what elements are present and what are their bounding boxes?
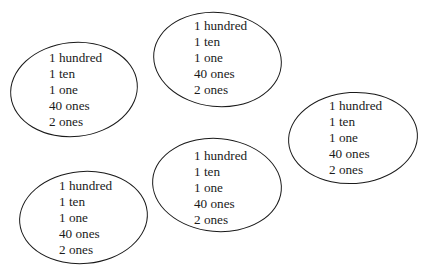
line-one: 1 one — [194, 50, 247, 66]
line-40-ones: 40 ones — [194, 196, 247, 212]
line-hundred: 1 hundred — [59, 178, 112, 194]
line-hundred: 1 hundred — [329, 98, 382, 114]
line-one: 1 one — [59, 210, 112, 226]
line-40-ones: 40 ones — [59, 226, 112, 242]
line-hundred: 1 hundred — [194, 18, 247, 34]
line-2-ones: 2 ones — [49, 114, 102, 130]
line-hundred: 1 hundred — [49, 50, 102, 66]
line-ten: 1 ten — [194, 164, 247, 180]
line-one: 1 one — [49, 82, 102, 98]
ellipse-right-text: 1 hundred 1 ten 1 one 40 ones 2 ones — [329, 98, 382, 178]
line-one: 1 one — [329, 130, 382, 146]
line-ten: 1 ten — [59, 194, 112, 210]
line-2-ones: 2 ones — [194, 82, 247, 98]
line-40-ones: 40 ones — [194, 66, 247, 82]
line-2-ones: 2 ones — [329, 162, 382, 178]
line-40-ones: 40 ones — [49, 98, 102, 114]
line-2-ones: 2 ones — [59, 242, 112, 258]
line-40-ones: 40 ones — [329, 146, 382, 162]
ellipse-bottom-left-text: 1 hundred 1 ten 1 one 40 ones 2 ones — [59, 178, 112, 258]
line-hundred: 1 hundred — [194, 148, 247, 164]
line-ten: 1 ten — [49, 66, 102, 82]
line-ten: 1 ten — [329, 114, 382, 130]
line-ten: 1 ten — [194, 34, 247, 50]
ellipse-top-center-text: 1 hundred 1 ten 1 one 40 ones 2 ones — [194, 18, 247, 98]
ellipse-left-text: 1 hundred 1 ten 1 one 40 ones 2 ones — [49, 50, 102, 130]
line-2-ones: 2 ones — [194, 212, 247, 228]
line-one: 1 one — [194, 180, 247, 196]
ellipse-bottom-center-text: 1 hundred 1 ten 1 one 40 ones 2 ones — [194, 148, 247, 228]
